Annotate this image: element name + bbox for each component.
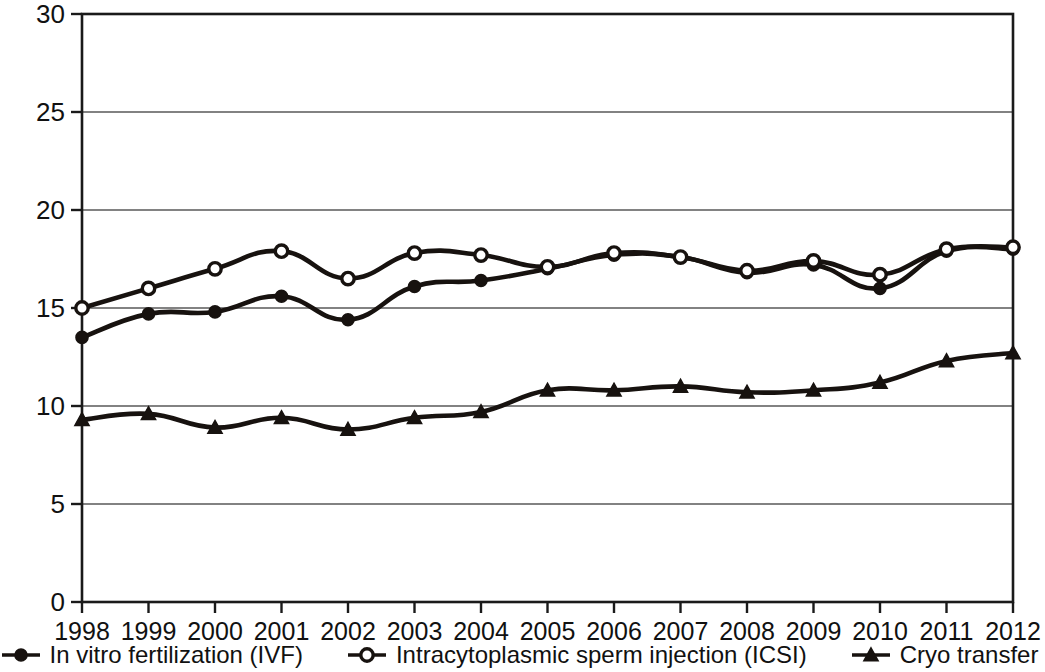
y-axis-tick-label: 5 [20, 491, 65, 517]
open-circle-marker [674, 251, 686, 263]
open-circle-marker [209, 263, 221, 275]
y-axis-tick-label: 15 [20, 295, 65, 321]
filled-circle-marker [15, 649, 27, 661]
open-circle-marker [275, 245, 287, 257]
y-axis-tick-label: 10 [20, 393, 65, 419]
open-circle-marker [361, 649, 373, 661]
filled-circle-legend-icon [1, 645, 41, 665]
open-circle-marker [874, 268, 886, 280]
chart-legend: In vitro fertilization (IVF)Intracytopla… [0, 638, 1039, 672]
open-circle-marker [342, 272, 354, 284]
open-circle-marker [741, 265, 753, 277]
filled-circle-marker [143, 308, 155, 320]
y-axis-tick-label: 25 [20, 99, 65, 125]
legend-item-3[interactable]: Cryo transfer [851, 643, 1039, 667]
open-circle-legend-icon [347, 645, 387, 665]
filled-circle-marker [209, 306, 221, 318]
y-axis-tick-label: 20 [20, 197, 65, 223]
open-circle-marker [940, 243, 952, 255]
filled-circle-marker [342, 314, 354, 326]
filled-circle-marker [874, 282, 886, 294]
filled-triangle-legend-icon [851, 645, 891, 665]
legend-item-1[interactable]: In vitro fertilization (IVF) [1, 643, 303, 667]
open-circle-marker [76, 302, 88, 314]
open-circle-marker [541, 261, 553, 273]
open-circle-marker [608, 247, 620, 259]
filled-circle-marker [276, 290, 288, 302]
legend-item-2[interactable]: Intracytoplasmic sperm injection (ICSI) [347, 643, 807, 667]
y-axis-tick-label: 0 [20, 589, 65, 615]
filled-circle-marker [409, 280, 421, 292]
legend-label: Intracytoplasmic sperm injection (ICSI) [396, 643, 807, 667]
open-circle-marker [142, 282, 154, 294]
open-circle-marker [475, 249, 487, 261]
filled-circle-marker [475, 275, 487, 287]
y-axis-tick-label: 30 [20, 1, 65, 27]
legend-label: In vitro fertilization (IVF) [50, 643, 303, 667]
open-circle-marker [1007, 241, 1019, 253]
open-circle-marker [807, 255, 819, 267]
filled-circle-marker [76, 331, 88, 343]
open-circle-marker [408, 247, 420, 259]
legend-label: Cryo transfer [900, 643, 1039, 667]
